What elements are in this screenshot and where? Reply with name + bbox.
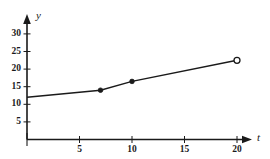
x-tick-label-20: 20	[232, 145, 242, 155]
data-point-marker-open	[234, 57, 240, 63]
data-series-line	[27, 57, 240, 97]
y-axis-arrow-icon	[23, 14, 31, 24]
y-tick-label-15: 15	[12, 82, 22, 92]
chart-canvas	[0, 0, 270, 159]
x-axis-label: t	[257, 132, 260, 143]
y-tick-label-20: 20	[12, 64, 22, 74]
line-chart: 5 10 15 20 25 30 5 10 15 20 y t	[0, 0, 270, 159]
x-tick-label-5: 5	[77, 145, 82, 155]
x-axis-arrow-icon	[242, 136, 252, 144]
data-point-marker-filled	[98, 88, 103, 93]
y-tick-label-30: 30	[12, 29, 22, 39]
y-tick-label-10: 10	[12, 100, 22, 110]
x-tick-label-15: 15	[180, 145, 190, 155]
y-tick-label-25: 25	[12, 47, 22, 57]
y-tick-label-5: 5	[16, 117, 21, 127]
data-point-marker-filled	[130, 79, 135, 84]
y-axis-label: y	[36, 10, 41, 21]
x-tick-label-10: 10	[127, 145, 137, 155]
